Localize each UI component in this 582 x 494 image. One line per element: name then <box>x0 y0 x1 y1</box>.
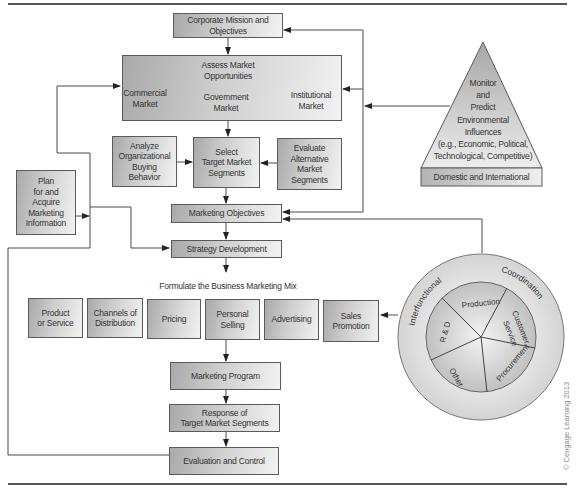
mix-pricing: Pricing <box>147 299 201 339</box>
assess-market-title: Assess Market Opportunities <box>188 60 268 81</box>
ring-label-interfunctional: Interfunctional <box>407 275 444 326</box>
environment-base-label: Domestic and International <box>421 172 542 183</box>
corporate-mission-box: Corporate Mission andObjectives <box>173 13 283 38</box>
box-label: Corporate Mission and <box>187 15 268 26</box>
plan-marketing-information-box: Planfor andAcquireMarketingInformation <box>16 170 76 235</box>
institutional-market-label: Institutional Market <box>281 90 341 111</box>
copyright-notice: © Cengage Learning 2013 <box>562 382 571 470</box>
evaluation-and-control-box: Evaluation and Control <box>169 447 279 475</box>
strategy-development-box: Strategy Development <box>171 240 282 258</box>
government-market-label: Government Market <box>196 92 256 113</box>
response-target-segments-box: Response ofTarget Market Segments <box>169 404 280 432</box>
mix-personal-selling: PersonalSelling <box>205 299 260 340</box>
mix-heading: Formulate the Business Marketing Mix <box>150 281 306 292</box>
marketing-program-box: Marketing Program <box>170 362 281 390</box>
commercial-market-label: Commercial Market <box>115 88 175 109</box>
mix-advertising: Advertising <box>264 299 319 340</box>
slice-procurement: Procurement <box>495 342 532 383</box>
select-target-segments-box: SelectTarget MarketSegments <box>193 137 260 188</box>
environment-text: Monitor and Predict Environmental Influe… <box>421 77 545 162</box>
slice-rd: R & D <box>438 320 452 343</box>
box-label: Objectives <box>187 26 268 37</box>
slice-production: Production <box>461 297 500 310</box>
evaluate-alternative-segments-box: EvaluateAlternativeMarketSegments <box>277 138 342 190</box>
ring-label-coordination: Coordination <box>500 264 546 301</box>
mix-product-or-service: Productor Service <box>28 298 83 338</box>
marketing-objectives-box: Marketing Objectives <box>171 204 282 223</box>
mix-sales-promotion: SalesPromotion <box>323 300 379 342</box>
mix-channels-of-distribution: Channels ofDistribution <box>87 298 143 338</box>
analyze-buying-behavior-box: AnalyzeOrganizationalBuyingBehavior <box>112 136 177 187</box>
slice-other: Other <box>447 367 465 389</box>
business-marketing-planning-diagram: Interfunctional Coordination Production … <box>0 0 582 494</box>
